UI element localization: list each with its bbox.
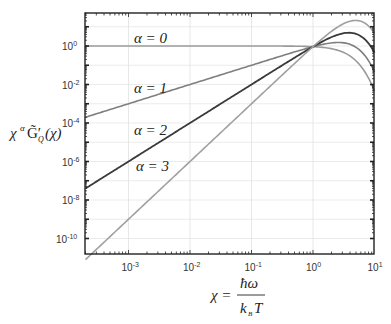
x-tick-label: 10-3	[122, 261, 139, 273]
y-label-arg: (χ)	[45, 125, 62, 142]
curves	[86, 20, 375, 259]
y-label-alpha: α	[20, 123, 25, 133]
y-tick-label: 10-4	[62, 117, 79, 129]
x-label-B: B	[248, 310, 253, 318]
x-tick-label: 10-2	[183, 261, 200, 273]
x-label-T: T	[254, 300, 264, 316]
label-alpha-3: α = 3	[136, 158, 169, 174]
y-label-chi: χ	[8, 125, 17, 141]
curve-alpha-1	[86, 42, 375, 117]
x-axis-label: χ = ħω k B T	[209, 275, 265, 318]
y-tick-label: 10-2	[62, 79, 79, 91]
y-tick-label: 10-6	[62, 156, 79, 168]
x-tick-label: 100	[306, 261, 321, 273]
y-tick-label: 100	[62, 40, 77, 52]
x-label-k: k	[240, 300, 247, 316]
y-tick-label: 10-8	[62, 194, 79, 206]
curve-alpha-2	[86, 33, 375, 189]
label-alpha-1: α = 1	[134, 80, 167, 96]
x-label-lhs: χ =	[209, 287, 231, 303]
label-alpha-2: α = 2	[134, 122, 167, 138]
x-label-numerator: ħω	[240, 275, 258, 291]
x-tick-labels: 10-310-210-1100101	[122, 261, 383, 273]
y-tick-label: 10-10	[56, 233, 77, 245]
y-tick-labels: 10010-210-410-610-810-10	[56, 40, 79, 245]
x-tick-label: 10-1	[245, 261, 262, 273]
y-label-Q: Q	[38, 135, 44, 144]
y-axis-label: χ α G̃′ Q (χ)	[8, 123, 62, 144]
chart: 10-310-210-1100101 10010-210-410-610-810…	[0, 0, 391, 324]
x-tick-label: 101	[368, 261, 383, 273]
curve-alpha-3	[86, 20, 375, 259]
label-alpha-0: α = 0	[134, 30, 167, 46]
